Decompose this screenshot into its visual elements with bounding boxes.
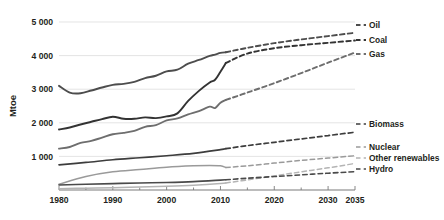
legend-label-oil: Oil [369, 20, 380, 30]
legend-label-gas: Gas [369, 49, 385, 59]
legend-label-biomass: Biomass [369, 119, 404, 129]
series-line-oil-historical [59, 52, 226, 93]
energy-outlook-line-chart: 1 0002 0003 0004 0005 000198019902000201… [0, 0, 444, 220]
y-axis-tick-label: 1 000 [31, 152, 53, 162]
x-axis-tick-label: 1980 [49, 195, 68, 205]
series-line-biomass-projection [226, 132, 355, 148]
x-axis-tick-label: 1990 [103, 195, 122, 205]
series-line-gas-projection [226, 53, 355, 100]
legend-label-nuclear: Nuclear [369, 142, 400, 152]
y-axis-tick-label: 3 000 [31, 84, 53, 94]
y-axis-tick-label: 5 000 [31, 17, 53, 27]
y-axis-title: Mtoe [7, 95, 18, 117]
x-axis-tick-label: 2020 [265, 195, 284, 205]
chart-container: 1 0002 0003 0004 0005 000198019902000201… [0, 0, 444, 220]
legend-label-other-renewables: Other renewables [369, 153, 440, 163]
x-axis-tick-label: 2010 [211, 195, 230, 205]
y-axis-tick-label: 2 000 [31, 118, 53, 128]
series-line-coal-historical [59, 63, 226, 130]
series-line-nuclear-projection [226, 156, 355, 168]
legend-label-hydro: Hydro [369, 164, 393, 174]
x-axis-tick-label: 2035 [345, 195, 364, 205]
y-axis-tick-label: 4 000 [31, 51, 53, 61]
legend-label-coal: Coal [369, 35, 387, 45]
x-axis-tick-label: 2000 [157, 195, 176, 205]
x-axis-tick-label: 2030 [319, 195, 338, 205]
